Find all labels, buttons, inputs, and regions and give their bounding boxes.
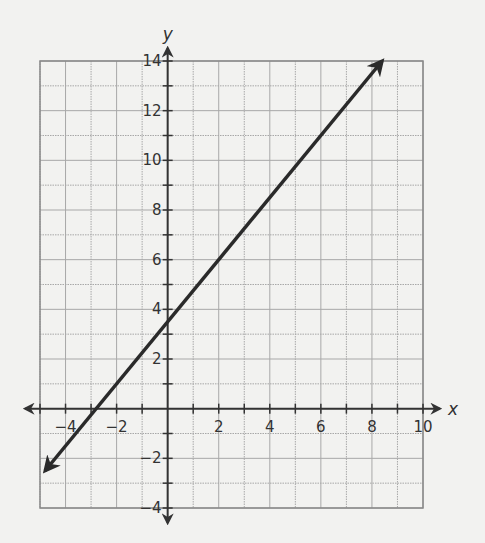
y-tick-label: 14 xyxy=(143,52,162,70)
x-tick-label: 10 xyxy=(413,418,432,436)
y-tick-label: 10 xyxy=(143,151,162,169)
coordinate-plane: −4−2246810−4−22468101214xy xyxy=(0,0,485,543)
y-tick-label: −2 xyxy=(140,449,162,467)
y-tick-label: 2 xyxy=(152,350,162,368)
x-tick-label: 2 xyxy=(214,418,224,436)
y-tick-label: 12 xyxy=(143,102,162,120)
x-tick-label: −4 xyxy=(54,418,76,436)
y-tick-label: 4 xyxy=(152,300,162,318)
x-tick-label: 4 xyxy=(265,418,275,436)
tick-labels: −4−2246810−4−22468101214xy xyxy=(54,24,459,517)
y-tick-label: 6 xyxy=(152,251,162,269)
x-tick-label: −2 xyxy=(106,418,128,436)
x-tick-label: 6 xyxy=(316,418,326,436)
y-tick-label: 8 xyxy=(152,201,162,219)
grid-lines xyxy=(40,61,423,508)
y-tick-label: −4 xyxy=(140,499,162,517)
x-tick-label: 8 xyxy=(367,418,377,436)
axes xyxy=(25,48,440,523)
x-axis-label: x xyxy=(447,399,459,419)
y-axis-label: y xyxy=(162,24,174,44)
